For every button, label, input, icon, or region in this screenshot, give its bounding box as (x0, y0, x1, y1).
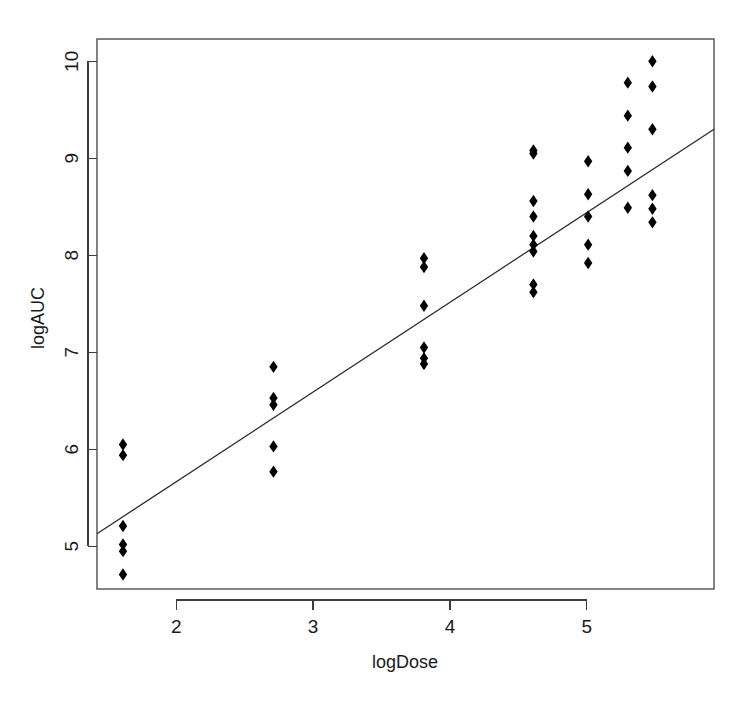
x-tick-label: 5 (581, 616, 592, 637)
scatter-plot-figure: 5678910 2345 logDose logAUC (0, 0, 753, 706)
y-tick-label: 9 (62, 153, 83, 164)
y-tick-label: 7 (62, 347, 83, 358)
x-axis-title: logDose (372, 652, 438, 672)
y-axis-title: logAUC (28, 287, 48, 349)
y-tick-label: 5 (62, 541, 83, 552)
x-tick-label: 4 (445, 616, 456, 637)
chart-canvas: 5678910 2345 logDose logAUC (0, 0, 753, 706)
y-tick-label: 8 (62, 250, 83, 261)
y-tick-label: 10 (62, 51, 83, 72)
x-tick-label: 2 (171, 616, 182, 637)
x-tick-label: 3 (308, 616, 319, 637)
y-tick-label: 6 (62, 444, 83, 455)
